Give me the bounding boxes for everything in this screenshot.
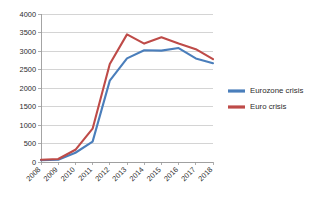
- y-axis-tick-label: 4000: [20, 10, 36, 19]
- legend-label: Eurozone crisis: [250, 86, 303, 95]
- legend-label: Euro crisis: [250, 102, 286, 111]
- y-axis-tick-label: 3000: [20, 47, 36, 56]
- line-chart: 40003500300025002000150010005000 2008200…: [0, 0, 322, 199]
- y-axis-tick-label: 500: [24, 139, 36, 148]
- y-axis-tick-label: 1500: [20, 102, 36, 111]
- chart-container: 40003500300025002000150010005000 2008200…: [0, 0, 322, 199]
- y-axis-tick-label: 2000: [20, 84, 36, 93]
- y-axis-tick-label: 2500: [20, 65, 36, 74]
- y-axis-tick-label: 1000: [20, 121, 36, 130]
- y-axis-tick-label: 3500: [20, 28, 36, 37]
